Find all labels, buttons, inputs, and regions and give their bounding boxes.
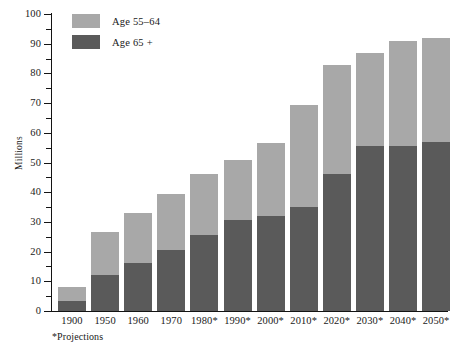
legend-swatch-age-55-64 <box>72 14 100 28</box>
y-tick-label: 50 <box>1 158 41 169</box>
y-tick-major <box>44 192 51 193</box>
bar-segment-age-55-64 <box>91 232 119 275</box>
y-tick-label: 30 <box>1 217 41 228</box>
bar-group <box>224 14 252 311</box>
bar-segment-age-65-plus <box>91 275 119 311</box>
bar-segment-age-55-64 <box>389 41 417 146</box>
y-tick-major <box>44 103 51 104</box>
y-tick-label: 60 <box>1 128 41 139</box>
bar-segment-age-55-64 <box>290 105 318 207</box>
bar-segment-age-65-plus <box>389 146 417 311</box>
y-tick-label: 80 <box>1 68 41 79</box>
y-tick-major <box>44 44 51 45</box>
bar-segment-age-65-plus <box>290 207 318 311</box>
y-tick-label: 90 <box>1 39 41 50</box>
legend-swatch-age-65-plus <box>72 35 100 49</box>
bar-group <box>58 14 86 311</box>
bar-group <box>290 14 318 311</box>
bar-segment-age-55-64 <box>323 65 351 175</box>
bar-segment-age-65-plus <box>58 301 86 311</box>
y-tick-label: 10 <box>1 276 41 287</box>
bar-segment-age-55-64 <box>422 38 450 142</box>
bar-segment-age-65-plus <box>190 235 218 311</box>
y-tick-major <box>44 311 51 312</box>
y-tick-label: 40 <box>1 187 41 198</box>
stacked-bar-chart: Millions 0102030405060708090100 19001950… <box>0 0 452 351</box>
y-tick-major <box>44 163 51 164</box>
bar-group <box>389 14 417 311</box>
bar-group <box>257 14 285 311</box>
bar-segment-age-65-plus <box>323 174 351 311</box>
bar-group <box>124 14 152 311</box>
bar-group <box>157 14 185 311</box>
bar-group <box>422 14 450 311</box>
bar-group <box>356 14 384 311</box>
bar-segment-age-55-64 <box>356 53 384 147</box>
bar-group <box>323 14 351 311</box>
bar-segment-age-65-plus <box>157 250 185 311</box>
bar-segment-age-65-plus <box>124 263 152 311</box>
bar-segment-age-55-64 <box>190 174 218 235</box>
legend-label-age-55-64: Age 55–64 <box>112 15 160 28</box>
bars-layer <box>51 14 448 311</box>
y-tick-label: 100 <box>1 9 41 20</box>
bar-segment-age-65-plus <box>257 216 285 311</box>
footnote-projections: *Projections <box>52 331 103 342</box>
bar-segment-age-65-plus <box>422 142 450 311</box>
bar-group <box>91 14 119 311</box>
y-tick-label: 20 <box>1 247 41 258</box>
x-tick-label: 2050* <box>410 315 452 326</box>
y-tick-major <box>44 252 51 253</box>
bar-segment-age-55-64 <box>124 213 152 263</box>
y-tick-major <box>44 222 51 223</box>
bar-segment-age-55-64 <box>58 287 86 300</box>
y-tick-major <box>44 281 51 282</box>
bar-group <box>190 14 218 311</box>
y-tick-major <box>44 14 51 15</box>
bar-segment-age-65-plus <box>224 220 252 311</box>
y-tick-major <box>44 133 51 134</box>
y-tick-label: 70 <box>1 98 41 109</box>
legend-label-age-65-plus: Age 65 + <box>112 36 153 49</box>
bar-segment-age-65-plus <box>356 146 384 311</box>
bar-segment-age-55-64 <box>157 194 185 250</box>
bar-segment-age-55-64 <box>224 160 252 221</box>
y-tick-major <box>44 73 51 74</box>
y-tick-label: 0 <box>1 306 41 317</box>
bar-segment-age-55-64 <box>257 143 285 216</box>
x-axis-line <box>51 311 448 312</box>
